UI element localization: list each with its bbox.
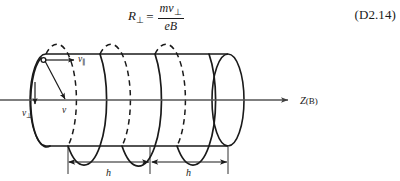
v-parallel-label: v∥: [78, 54, 86, 66]
equation-number: (D2.14): [355, 7, 397, 23]
equation-fraction: mv⊥ eB: [158, 2, 184, 32]
magnetic-field-axis: Z(B): [0, 95, 318, 106]
pitch-dimensions: h h: [68, 147, 228, 178]
equation-expression: R⊥ = mv⊥ eB: [128, 2, 185, 32]
equation-relation: =: [144, 10, 156, 23]
v-total-arrow: [45, 61, 65, 99]
helix-front-arcs: [31, 54, 216, 166]
equation-row: R⊥ = mv⊥ eB (D2.14): [0, 0, 400, 42]
equation-denominator: eB: [162, 19, 179, 32]
pitch-label-left: h: [106, 167, 111, 178]
equation-numerator: mv⊥: [158, 2, 184, 18]
equation-numerator-subscript: ⊥: [174, 7, 182, 17]
helix-front-arc-0: [31, 58, 50, 147]
pitch-label-right: h: [186, 167, 191, 178]
equation-numerator-symbol: mv: [160, 1, 174, 15]
equation-lhs-subscript: ⊥: [136, 15, 144, 25]
axis-label-field: (B): [306, 96, 318, 106]
equation-lhs: R⊥: [128, 9, 144, 25]
equation-lhs-symbol: R: [128, 8, 136, 23]
helix-cylinder-svg: Z(B) v∥ v v⊥: [0, 40, 400, 181]
axis-label-z: Z(B): [300, 95, 318, 106]
v-total-label: v: [62, 105, 67, 115]
figure-diagram: Z(B) v∥ v v⊥: [0, 40, 400, 181]
